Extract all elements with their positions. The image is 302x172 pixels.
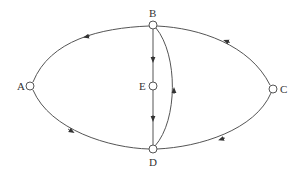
edge-b-a: [33, 26, 149, 82]
node-label-a: A: [17, 81, 25, 92]
edge-a-d: [33, 90, 149, 149]
node-d: [149, 145, 157, 153]
node-c: [269, 85, 277, 93]
node-label-d: D: [149, 157, 157, 168]
node-label-b: B: [149, 8, 156, 19]
node-b: [149, 21, 157, 29]
edge-c-b: [157, 26, 270, 85]
node-a: [26, 82, 34, 90]
edge-d-b: [155, 28, 172, 146]
node-e: [149, 82, 157, 90]
graph-canvas: [0, 0, 302, 172]
node-label-e: E: [139, 81, 146, 92]
edge-c-d: [157, 93, 271, 149]
node-label-c: C: [280, 84, 287, 95]
